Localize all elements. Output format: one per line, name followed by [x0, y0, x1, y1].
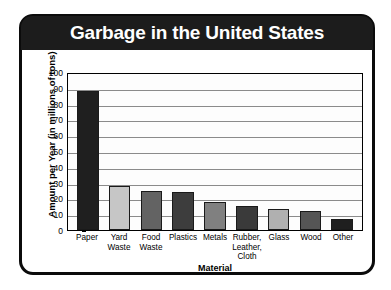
x-axis-category-line: Yard — [103, 233, 135, 243]
y-axis-tick: 30 — [54, 179, 63, 189]
chart-card: Garbage in the United States Amount per … — [19, 14, 375, 275]
bar-slot — [326, 74, 358, 230]
bar-chart: Amount per Year (in millions of tons) 10… — [22, 51, 372, 272]
x-axis-category-line: Rubber, — [231, 233, 263, 243]
page-title: Garbage in the United States — [70, 22, 324, 44]
x-axis-category-line: Plastics — [167, 233, 199, 243]
x-axis-category-line: Waste — [135, 243, 167, 253]
bar-rubber-leather-cloth — [236, 206, 258, 230]
x-axis-category-line: Food — [135, 233, 167, 243]
x-axis-title: Material — [67, 263, 363, 273]
x-axis-category-line: Waste — [103, 243, 135, 253]
bar-series — [68, 74, 362, 230]
y-axis-tick: 10 — [54, 210, 63, 220]
x-axis-category-label: Plastics — [167, 233, 199, 262]
bar-slot — [167, 74, 199, 230]
x-axis-category-line: Paper — [71, 233, 103, 243]
x-axis-category-label: Glass — [263, 233, 295, 262]
bar-metals — [204, 202, 226, 230]
bar-slot — [104, 74, 136, 230]
x-axis-category-label: Other — [327, 233, 359, 262]
y-axis-tick: 100 — [49, 68, 63, 78]
x-axis-category-line: Leather, — [231, 243, 263, 253]
y-axis-tick: 60 — [54, 131, 63, 141]
x-axis-category-line: Other — [327, 233, 359, 243]
y-axis-tick: 0 — [58, 226, 63, 236]
y-axis-tick: 90 — [54, 84, 63, 94]
x-axis-category-line: Wood — [295, 233, 327, 243]
bar-other — [331, 219, 353, 230]
x-axis-category-label: Wood — [295, 233, 327, 262]
x-axis-category-line: Metals — [199, 233, 231, 243]
bar-slot — [231, 74, 263, 230]
x-axis-tick-labels: PaperYardWasteFoodWastePlasticsMetalsRub… — [67, 233, 363, 262]
x-axis-category-label: FoodWaste — [135, 233, 167, 262]
bar-glass — [268, 209, 290, 230]
bar-wood — [300, 211, 322, 230]
x-axis-category-label: YardWaste — [103, 233, 135, 262]
bar-plastics — [172, 192, 194, 230]
x-axis-category-label: Rubber,Leather,Cloth — [231, 233, 263, 262]
bar-slot — [263, 74, 295, 230]
bar-slot — [294, 74, 326, 230]
x-axis-category-label: Metals — [199, 233, 231, 262]
bar-yard-waste — [109, 186, 131, 230]
y-axis-tick: 40 — [54, 163, 63, 173]
y-axis-tick-labels: 1009080706050403020100 — [41, 73, 63, 231]
y-axis-tick: 80 — [54, 100, 63, 110]
plot-area — [67, 73, 363, 231]
y-axis-tick: 20 — [54, 194, 63, 204]
x-axis-category-label: Paper — [71, 233, 103, 262]
x-axis-category-line: Cloth — [231, 252, 263, 262]
bar-slot — [72, 74, 104, 230]
bar-paper — [77, 91, 99, 230]
bar-slot — [136, 74, 168, 230]
chart-title-banner: Garbage in the United States — [21, 16, 373, 50]
y-axis-tick: 70 — [54, 115, 63, 125]
bar-food-waste — [141, 191, 163, 231]
y-axis-tick-mark — [82, 231, 86, 232]
y-axis-tick: 50 — [54, 147, 63, 157]
bar-slot — [199, 74, 231, 230]
x-axis-category-line: Glass — [263, 233, 295, 243]
